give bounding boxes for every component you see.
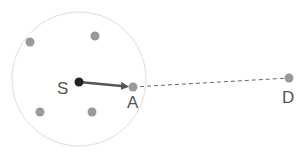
neighbor-node: [26, 38, 35, 47]
destination-node: [285, 74, 294, 83]
next-hop-node: [129, 83, 138, 92]
forward-arrow: [79, 82, 127, 87]
source-label: S: [57, 79, 68, 98]
neighbor-node: [91, 32, 100, 41]
neighbor-node: [88, 108, 97, 117]
next-hop-label: A: [127, 93, 139, 112]
dashed-path-line: [133, 78, 289, 87]
neighbor-node: [36, 108, 45, 117]
diagram-canvas: S A D: [0, 0, 304, 159]
destination-label: D: [282, 88, 294, 107]
source-node: [75, 78, 84, 87]
